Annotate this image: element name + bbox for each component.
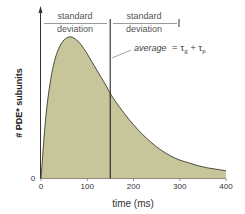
- y-axis-label: # PDE* subunits: [14, 68, 24, 138]
- sd-right-label-line2: deviation: [126, 24, 162, 34]
- x-tick-200: 200: [127, 182, 141, 191]
- x-tick-400: 400: [219, 182, 233, 191]
- y-tick-0: 0: [31, 174, 36, 183]
- x-ticks: [41, 179, 226, 182]
- average-leader-line: [112, 50, 131, 58]
- average-label: average: [134, 43, 167, 53]
- sd-right-label-line1: standard: [126, 11, 161, 21]
- sd-left-label-line1: standard: [57, 11, 92, 21]
- sd-left-label-line2: deviation: [57, 24, 93, 34]
- x-tick-0: 0: [39, 182, 44, 191]
- y-axis-arrow-icon: [39, 6, 43, 13]
- average-equation: = τg + τp: [172, 42, 206, 55]
- pde-time-course-chart: 0 100 200 300 400 0 time (ms) # PDE* sub…: [0, 0, 245, 214]
- x-tick-100: 100: [81, 182, 95, 191]
- x-axis-label: time (ms): [112, 198, 154, 209]
- x-tick-300: 300: [173, 182, 187, 191]
- curve-area: [41, 37, 226, 179]
